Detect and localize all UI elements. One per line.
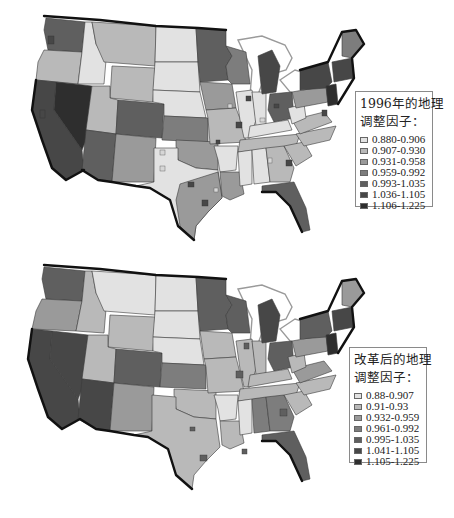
swatch-icon: [354, 415, 362, 421]
swatch-icon: [360, 137, 368, 143]
state-fl: [262, 431, 310, 481]
state-nm: [110, 383, 154, 431]
swatch-icon: [354, 404, 362, 410]
state-nd: [155, 26, 198, 62]
state-ar: [214, 395, 238, 421]
legend-label: 1.106-1.225: [372, 200, 425, 211]
legend-title-line1: 1996年的地理: [360, 95, 428, 113]
state-me: [342, 30, 364, 58]
state-or: [36, 50, 82, 84]
legend-1996: 1996年的地理 调整因子： 0.880-0.906 0.907-0.930 0…: [355, 91, 433, 207]
state-sd: [153, 311, 200, 339]
state-wa: [44, 18, 85, 52]
state-ks: [160, 363, 206, 389]
state-mn: [196, 28, 232, 82]
state-wy: [110, 66, 155, 102]
state-ms: [238, 150, 252, 186]
legend-item: 1.105-1.225: [354, 456, 422, 467]
swatch-icon: [354, 393, 362, 399]
legend-title-line2: 调整因子：: [360, 113, 428, 131]
state-ks: [162, 116, 208, 142]
state-wa: [42, 267, 85, 301]
state-nm: [112, 134, 156, 182]
state-ia: [200, 331, 236, 359]
state-or: [32, 299, 82, 331]
state-az: [78, 379, 114, 431]
state-new-england: [332, 58, 354, 82]
state-nj: [326, 84, 338, 106]
swatch-icon: [360, 203, 368, 209]
swatch-icon: [360, 192, 368, 198]
state-wy: [108, 315, 155, 351]
legend-item: 1.106-1.225: [360, 200, 428, 211]
swatch-icon: [360, 170, 368, 176]
swatch-icon: [354, 426, 362, 432]
swatch-icon: [354, 437, 362, 443]
state-nd: [155, 275, 198, 311]
swatch-icon: [360, 159, 368, 165]
legend-title-line2: 调整因子：: [354, 369, 422, 387]
legend-reform: 改革后的地理 调整因子： 0.88-0.907 0.91-0.93 0.932-…: [349, 347, 427, 463]
state-new-england: [332, 307, 354, 331]
state-me: [342, 279, 364, 307]
swatch-icon: [360, 181, 368, 187]
legend-title-line1: 改革后的地理: [354, 351, 422, 369]
state-nj: [326, 333, 338, 355]
state-co: [116, 100, 164, 138]
swatch-icon: [354, 448, 362, 454]
state-fl: [262, 182, 310, 232]
state-co: [114, 349, 162, 387]
state-mn: [196, 277, 232, 331]
swatch-icon: [360, 148, 368, 154]
legend-label: 1.105-1.225: [366, 456, 419, 467]
swatch-icon: [354, 459, 362, 465]
state-ms: [238, 399, 252, 435]
state-sd: [153, 62, 200, 92]
